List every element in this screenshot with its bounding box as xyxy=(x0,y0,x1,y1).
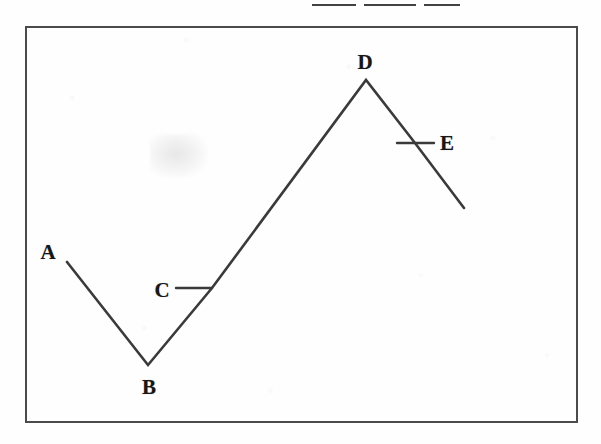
point-label-c: C xyxy=(154,280,169,301)
leader-lines-group xyxy=(176,143,434,288)
polyline-drawing xyxy=(0,0,601,444)
point-label-e: E xyxy=(440,133,454,154)
point-label-b: B xyxy=(142,377,156,398)
figure-page: ABCDE xyxy=(0,0,601,444)
zigzag-polyline xyxy=(67,80,464,365)
polyline-path-group xyxy=(67,80,464,365)
point-label-a: A xyxy=(40,242,55,263)
point-label-d: D xyxy=(357,52,372,73)
